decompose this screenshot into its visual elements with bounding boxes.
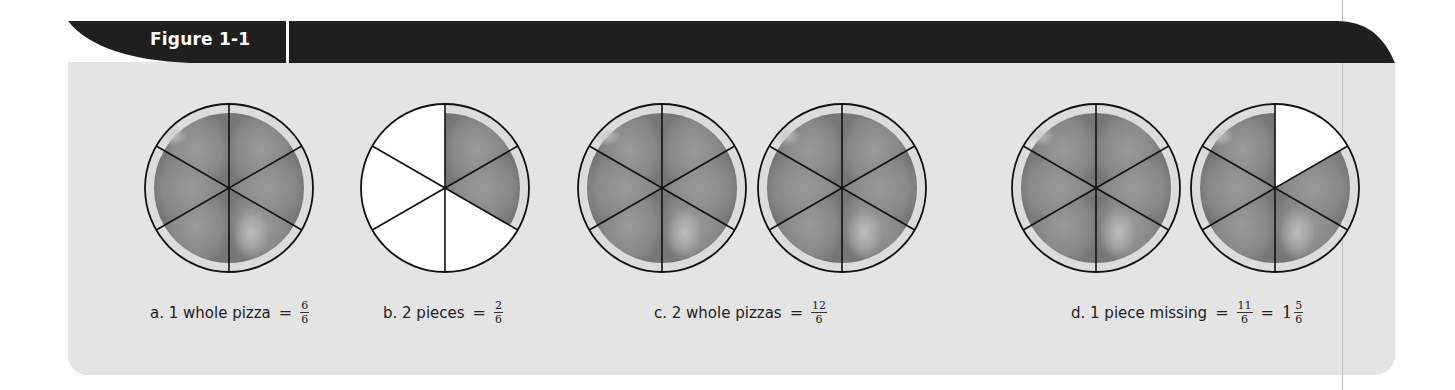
caption-a-text: a. 1 whole pizza [150, 304, 271, 322]
fraction-numerator: 2 [494, 300, 503, 313]
fraction-denominator: 6 [1241, 313, 1248, 325]
caption-d: d. 1 piece missing = 11 6 = 1 5 6 [1071, 300, 1303, 325]
pizza-illustrations [0, 0, 1455, 390]
fraction-numerator: 12 [811, 300, 827, 313]
fraction-denominator: 6 [1295, 313, 1302, 325]
fraction-numerator: 11 [1237, 300, 1253, 313]
equals-sign: = [279, 303, 292, 322]
caption-c: c. 2 whole pizzas = 12 6 [654, 300, 827, 325]
pizza-b-1 [361, 104, 529, 272]
equals-sign: = [1215, 303, 1228, 322]
fraction-c: 12 6 [811, 300, 827, 325]
fraction-b: 2 6 [494, 300, 503, 325]
caption-b-text: b. 2 pieces [383, 304, 465, 322]
fraction-denominator: 6 [301, 313, 308, 325]
equals-sign: = [790, 303, 803, 322]
caption-b: b. 2 pieces = 2 6 [383, 300, 503, 325]
fraction-d: 11 6 [1237, 300, 1253, 325]
pizza-d-2 [1191, 104, 1359, 272]
equals-sign: = [473, 303, 486, 322]
caption-a: a. 1 whole pizza = 6 6 [150, 300, 309, 325]
fraction-denominator: 6 [816, 313, 823, 325]
equals-sign-2: = [1261, 303, 1274, 322]
caption-c-text: c. 2 whole pizzas [654, 304, 782, 322]
caption-d-text: d. 1 piece missing [1071, 304, 1207, 322]
fraction-numerator: 5 [1294, 300, 1303, 313]
fraction-a: 6 6 [300, 300, 309, 325]
fraction-denominator: 6 [495, 313, 502, 325]
pizza-a-1 [145, 104, 313, 272]
mixed-whole: 1 [1282, 303, 1292, 322]
pizza-d-1 [1012, 104, 1180, 272]
pizza-c-2 [758, 104, 926, 272]
mixed-fraction-d: 5 6 [1294, 300, 1303, 325]
pizza-c-1 [578, 104, 746, 272]
fraction-numerator: 6 [300, 300, 309, 313]
